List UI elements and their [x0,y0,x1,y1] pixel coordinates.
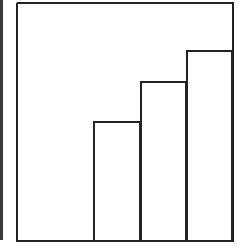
bar-2 [93,121,140,240]
left-edge-strip [0,0,3,240]
bar-3 [140,81,187,240]
bar-4 [186,50,233,240]
